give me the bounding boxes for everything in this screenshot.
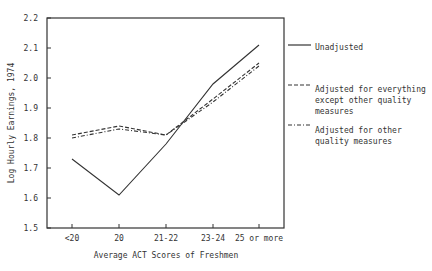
x-tick-label: 21-22: [154, 234, 178, 243]
series-line-dash-dot: [72, 66, 259, 138]
legend-label-adjusted-everything-2: except other quality: [315, 96, 412, 105]
legend: Unadjusted Adjusted for everything excep…: [288, 43, 426, 146]
x-axis: <202021-2223-2425 or more: [65, 224, 283, 243]
y-tick-label: 1.9: [24, 104, 39, 113]
series-line-dashed: [72, 63, 259, 135]
y-tick-label: 2.1: [24, 44, 39, 53]
legend-label-adjusted-everything-3: measures: [315, 107, 354, 116]
y-tick-label: 1.8: [24, 134, 39, 143]
legend-label-adjusted-quality-1: Adjusted for other: [315, 126, 402, 135]
y-tick-label: 2.0: [24, 74, 39, 83]
plot-frame: [47, 18, 284, 228]
series-line-solid: [72, 45, 259, 195]
y-tick-label: 1.6: [24, 194, 39, 203]
y-tick-label: 1.5: [24, 224, 39, 233]
x-tick-label: 25 or more: [235, 234, 283, 243]
line-chart: 1.51.61.71.81.92.02.12.2 <202021-2223-24…: [0, 0, 432, 271]
x-tick-label: <20: [65, 234, 80, 243]
y-axis-label: Log Hourly Earnings, 1974: [7, 63, 16, 184]
y-tick-label: 1.7: [24, 164, 39, 173]
legend-label-adjusted-quality-2: quality measures: [315, 137, 392, 146]
y-tick-label: 2.2: [24, 14, 39, 23]
x-axis-label: Average ACT Scores of Freshmen: [94, 251, 239, 260]
legend-label-unadjusted: Unadjusted: [315, 43, 363, 52]
x-tick-label: 23-24: [201, 234, 225, 243]
x-tick-label: 20: [114, 234, 124, 243]
legend-label-adjusted-everything-1: Adjusted for everything: [315, 85, 426, 94]
series-lines: [72, 45, 259, 195]
